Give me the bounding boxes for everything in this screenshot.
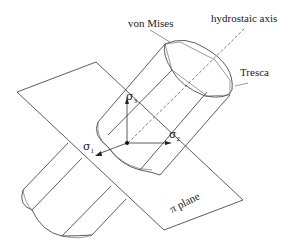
von-mises-label: von Mises (128, 17, 174, 29)
axis-sigma1 (95, 143, 127, 156)
lower-cylinder (22, 143, 126, 238)
origin-point (125, 141, 129, 145)
yield-surface-diagram: σ3 σ2 σ1 von Mises hydrostaic axis Tresc… (0, 0, 289, 246)
sigma2-label: σ2 (169, 128, 181, 143)
axis-sigma3 (125, 97, 129, 143)
pi-plane (17, 62, 243, 230)
sigma1-label: σ1 (83, 140, 95, 155)
axis-sigma2 (127, 141, 172, 145)
tresca-label: Tresca (240, 66, 269, 78)
hydrostatic-axis-label: hydrostaic axis (211, 12, 277, 24)
sigma3-label: σ3 (126, 90, 138, 105)
pi-plane-label: π plane (167, 189, 201, 214)
